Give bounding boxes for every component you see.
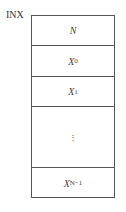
cell-xn-1-sub: N−1 xyxy=(70,179,83,187)
cell-count-text: N xyxy=(70,25,77,36)
cell-ellipsis: ⋮ xyxy=(32,107,114,168)
cell-x0-sub: 0 xyxy=(74,57,78,65)
cell-x1-sub: 1 xyxy=(74,88,78,96)
memory-array: N X0 X1 ⋮ XN−1 xyxy=(31,15,115,198)
array-label: INX xyxy=(6,10,24,20)
cell-x1: X1 xyxy=(32,77,114,107)
cell-xn-1: XN−1 xyxy=(32,168,114,198)
vertical-ellipsis-icon: ⋮ xyxy=(69,135,77,140)
cell-x0: X0 xyxy=(32,46,114,77)
cell-count: N xyxy=(32,16,114,46)
